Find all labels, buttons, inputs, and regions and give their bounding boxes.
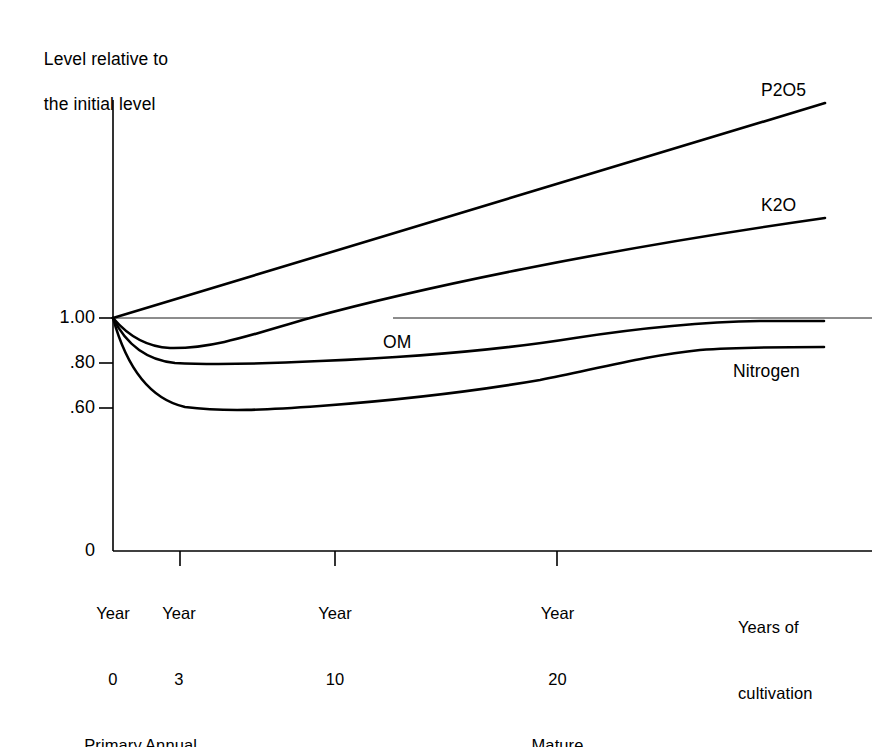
x-tick-label-year-20-line1: Year [500,603,615,625]
y-tick-label-0.60: .60 [23,396,95,419]
series-label-k2o: K2O [761,194,796,216]
y-axis-title-line2: the initial level [44,94,156,114]
series-line-om [113,318,824,364]
x-desc-year-3-line1: Annual [145,735,295,747]
series-label-nitrogen: Nitrogen [733,360,800,382]
y-axis-title-line1: Level relative to [44,49,168,69]
series-line-k2o [113,218,825,348]
series-label-p2o5: P2O5 [761,79,806,101]
x-tick-label-year-10-line1: Year [280,603,390,625]
y-tick-label-1.00: 1.00 [23,306,95,329]
x-tick-label-year-10-line2: 10 [280,669,390,691]
x-axis-group-year-10: Year 10 [280,559,390,735]
series-label-om: OM [383,331,411,353]
x-axis-end-label-line2: cultivation [738,683,881,705]
x-axis-end-label-line1: Years of [738,617,881,639]
x-tick-label-year-3-line1: Year [145,603,213,625]
x-axis-group-year-3: Year 3 Annual field crops, young trees [137,559,295,747]
x-tick-label-year-3-line2: 3 [145,669,213,691]
y-tick-label-0.80: .80 [23,351,95,374]
x-desc-year-20-line1: Mature [500,735,615,747]
chart-figure: Level relative to the initial level 1.00… [0,0,881,747]
x-tick-label-year-20-line2: 20 [500,669,615,691]
y-axis-title: Level relative to the initial level [24,26,168,138]
series-line-p2o5 [113,103,825,318]
x-axis-end-label: Years of cultivation [738,573,881,747]
x-axis-group-year-20: Year 20 Mature plantation [500,559,615,747]
